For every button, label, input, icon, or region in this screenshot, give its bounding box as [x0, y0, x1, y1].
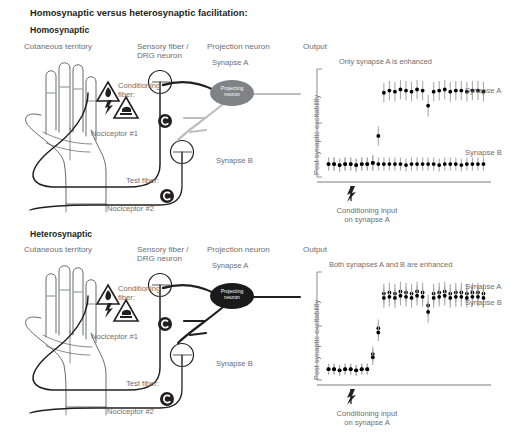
- figure-root: Homosynaptic versus heterosynaptic facil…: [0, 0, 514, 443]
- nociceptor-1-cell-icon: [157, 113, 173, 129]
- x-axis-annotation-homosynaptic: Conditioning input on synapse A: [312, 207, 422, 224]
- chart-plot-homosynaptic: [303, 55, 514, 225]
- legend-synapse-a-homosynaptic: Synapse A: [465, 87, 501, 96]
- section-heading-heterosynaptic: Heterosynaptic: [30, 230, 92, 240]
- section-heading-homosynaptic: Homosynaptic: [30, 26, 89, 36]
- test-fiber-label-2: Test fiber:: [126, 380, 159, 389]
- lightning-bolt-icon: [105, 100, 113, 115]
- legend-synapse-a-heterosynaptic: Synapse A: [465, 283, 501, 292]
- test-fiber-label: Test fiber:: [126, 177, 159, 186]
- nociceptor-2-cell-icon: [159, 188, 175, 204]
- synapse-b-label: Synapse B: [216, 157, 253, 166]
- nociceptor-2-cell-icon-2: [159, 391, 175, 407]
- column-label-output-2: Output: [303, 246, 327, 255]
- synapse-a-label: Synapse A: [212, 59, 248, 68]
- section-homosynaptic: Homosynaptic Cutaneous territory Sensory…: [0, 0, 514, 228]
- column-label-cutaneous-territory: Cutaneous territory: [24, 43, 92, 52]
- column-label-projection-neuron: Projection neuron: [207, 43, 270, 52]
- conditioning-fiber-label-2: Conditioning fiber:: [118, 285, 160, 302]
- chart-heterosynaptic: Both synapses A and B are enhanced Post …: [303, 258, 514, 428]
- nociceptor-1-cell-icon-2: [157, 316, 173, 332]
- synapse-b-label-2: Synapse B: [216, 360, 253, 369]
- column-label-output: Output: [303, 43, 327, 52]
- synapse-a-label-2: Synapse A: [212, 262, 248, 271]
- series-synapse-b: [327, 155, 486, 171]
- column-label-projection-neuron-2: Projection neuron: [207, 246, 270, 255]
- column-label-cutaneous-territory-2: Cutaneous territory: [24, 246, 92, 255]
- legend-synapse-b-homosynaptic: Synapse B: [465, 149, 502, 158]
- nociceptor-2-label: Nociceptor #2: [107, 205, 154, 214]
- nociceptor-1-label-2: Nociceptor #1: [91, 333, 138, 342]
- series-synapse-b: [327, 286, 486, 376]
- projection-neuron-dendrite-2: [178, 303, 228, 343]
- legend-synapse-b-heterosynaptic: Synapse B: [465, 299, 502, 308]
- projection-neuron-dendrite: [178, 100, 228, 140]
- nociceptor-2-label-2: Nociceptor #2: [107, 408, 154, 417]
- conditioning-input-arrow-heterosynaptic: [347, 389, 356, 405]
- conditioning-fiber-label: Conditioning fiber:: [118, 82, 160, 99]
- chart-homosynaptic: Only synapse A is enhanced Post synaptic…: [303, 55, 514, 225]
- flame-hazard-icon-2: [97, 285, 119, 304]
- column-label-sensory-fiber-2: Sensory fiber / DRG neuron: [137, 246, 189, 264]
- projecting-neuron-label: Projecting neuron: [210, 86, 254, 97]
- x-axis-annotation-heterosynaptic: Conditioning input on synapse A: [312, 410, 422, 427]
- flame-hazard-icon: [97, 82, 119, 101]
- nociceptor-1-label: Nociceptor #1: [91, 130, 138, 139]
- lightning-bolt-icon-2: [105, 303, 113, 318]
- section-heterosynaptic: Heterosynaptic Cutaneous territory Senso…: [0, 228, 514, 443]
- column-label-sensory-fiber: Sensory fiber / DRG neuron: [137, 43, 189, 61]
- conditioning-input-arrow-homosynaptic: [347, 186, 356, 202]
- projecting-neuron-label-2: Projecting neuron: [210, 289, 254, 300]
